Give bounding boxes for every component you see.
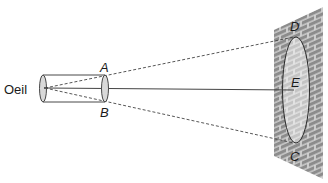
label-A: A — [99, 60, 109, 75]
ray-eye-A-D — [45, 37, 294, 88]
axis-eye-E — [45, 88, 294, 90]
label-E: E — [291, 75, 300, 90]
label-eye: Oeil — [4, 82, 27, 97]
label-D: D — [290, 19, 299, 34]
optics-diagram: Oeil A B D E C — [0, 0, 328, 183]
eye-point — [44, 87, 46, 89]
label-C: C — [290, 149, 300, 164]
ray-eye-B-C — [45, 88, 294, 143]
label-B: B — [100, 105, 109, 120]
tube-opening-AB — [102, 75, 109, 102]
